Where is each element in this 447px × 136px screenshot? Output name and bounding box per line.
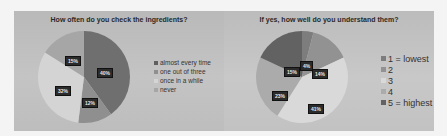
legend-swatch [154, 70, 158, 74]
data-label: 32% [55, 86, 71, 96]
legend-item: 3 [381, 75, 432, 86]
chart-title: How often do you check the ingredients? [14, 16, 224, 23]
legend-swatch [381, 56, 386, 61]
legend-item: 4 [381, 86, 432, 97]
legend-item: once in a while [154, 76, 211, 85]
chart-panel-understanding: If yes, how well do you understand them?… [224, 11, 434, 131]
data-label: 23% [272, 91, 288, 101]
legend-swatch [154, 79, 158, 83]
legend-swatch [381, 78, 386, 83]
legend-swatch [154, 61, 158, 65]
data-label: 12% [82, 98, 98, 108]
data-label: 15% [65, 56, 81, 66]
legend-swatch [154, 88, 158, 92]
legend-item: one out of three [154, 67, 211, 76]
chart-legend: 1 = lowest 2 3 4 5 = highest [381, 53, 432, 108]
legend-item: 5 = highest [381, 97, 432, 108]
legend-item: never [154, 85, 211, 94]
legend-item: almost every time [154, 58, 211, 67]
chart-legend: almost every time one out of three once … [154, 58, 211, 94]
legend-item: 2 [381, 64, 432, 75]
legend-swatch [381, 89, 386, 94]
legend-item: 1 = lowest [381, 53, 432, 64]
chart-title: If yes, how well do you understand them? [224, 16, 434, 23]
legend-swatch [381, 67, 386, 72]
data-label: 40% [97, 68, 113, 78]
pie-chart [36, 29, 132, 125]
data-label: 41% [308, 104, 324, 114]
chart-panel-check-frequency: How often do you check the ingredients? … [14, 11, 224, 131]
data-label: 15% [284, 67, 300, 77]
legend-swatch [381, 100, 386, 105]
pie-chart [254, 29, 350, 125]
data-label: 14% [312, 69, 328, 79]
